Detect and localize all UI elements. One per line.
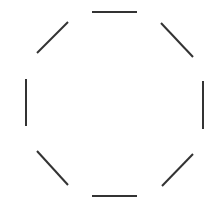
diagram-canvas <box>0 0 220 209</box>
lower-left-edge <box>37 151 68 185</box>
octagon-edges <box>26 12 203 196</box>
upper-right-edge <box>161 23 193 57</box>
upper-left-edge <box>37 22 68 53</box>
lower-right-edge <box>162 154 193 186</box>
octagon-diagram <box>0 0 220 209</box>
